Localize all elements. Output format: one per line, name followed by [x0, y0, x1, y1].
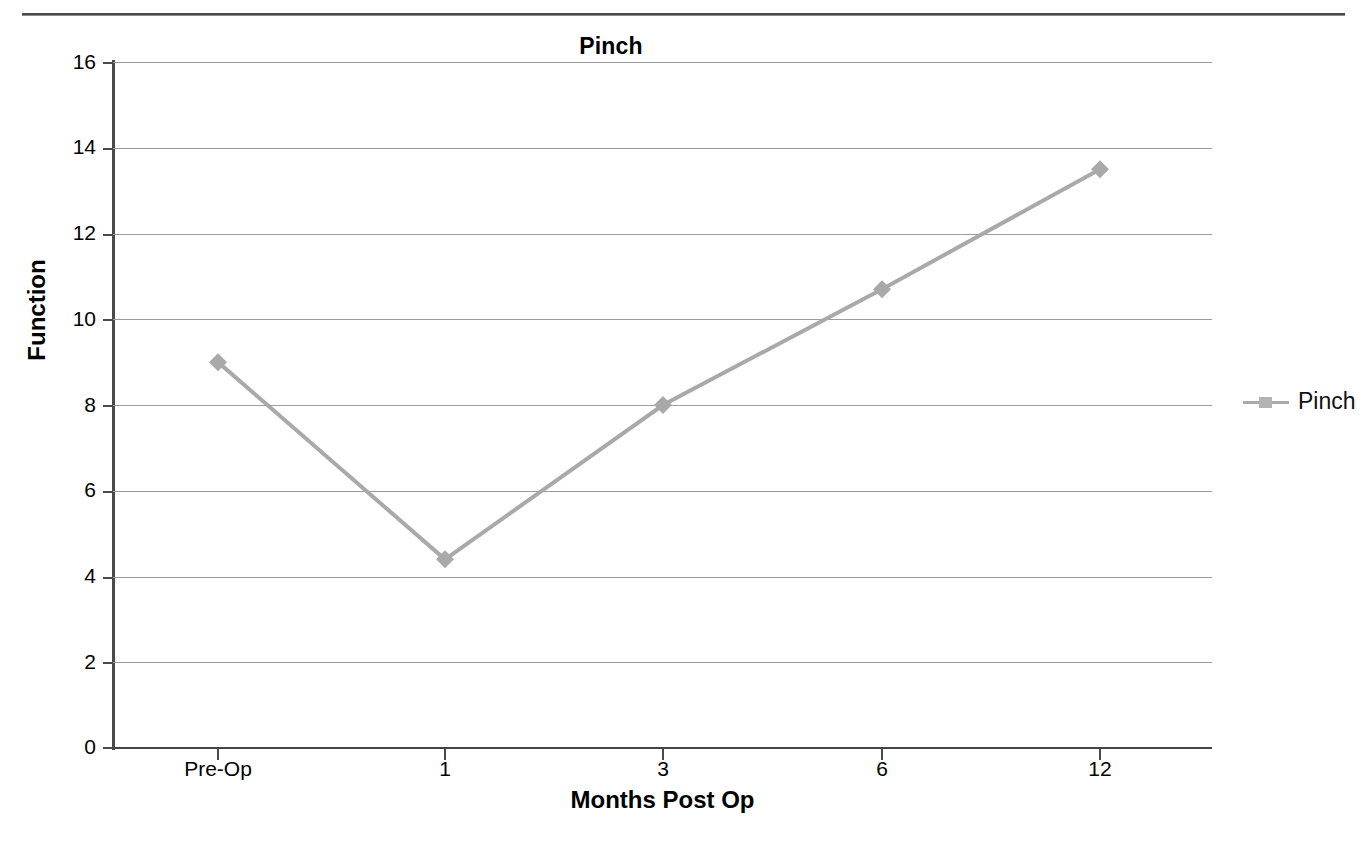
y-tick-label-14: 14: [36, 136, 96, 157]
y-tick-label-12: 12: [36, 222, 96, 243]
gridline-16: [113, 62, 1212, 63]
chart-legend: Pinch: [1243, 390, 1356, 413]
x-tick-label-3: 3: [583, 757, 743, 781]
y-tick-4: [103, 577, 113, 579]
x-tick-label-1: 1: [365, 757, 525, 781]
y-tick-12: [103, 234, 113, 236]
gridline-14: [113, 148, 1212, 149]
y-tick-label-8: 8: [36, 394, 96, 415]
y-tick-10: [103, 319, 113, 321]
y-tick-label-4: 4: [36, 565, 96, 586]
gridline-6: [113, 491, 1212, 492]
y-tick-label-6: 6: [36, 479, 96, 500]
gridline-12: [113, 234, 1212, 235]
y-tick-8: [103, 405, 113, 407]
x-tick-label-12: 12: [1020, 757, 1180, 781]
x-tick-label-pre-op: Pre-Op: [138, 757, 298, 781]
gridline-8: [113, 405, 1212, 406]
y-tick-label-16: 16: [36, 51, 96, 72]
y-tick-label-10: 10: [36, 308, 96, 329]
y-tick-16: [103, 62, 113, 64]
x-tick-label-6: 6: [802, 757, 962, 781]
legend-label-pinch: Pinch: [1298, 390, 1356, 413]
y-tick-label-2: 2: [36, 651, 96, 672]
gridline-4: [113, 577, 1212, 578]
gridline-10: [113, 319, 1212, 320]
y-tick-0: [103, 747, 113, 749]
plot-area: [113, 62, 1212, 748]
legend-marker-square: [1259, 397, 1272, 408]
y-tick-6: [103, 491, 113, 493]
y-tick-2: [103, 662, 113, 664]
chart-figure: Pinch Function 16 14 12 10 8 6 4 2 0 Pre…: [0, 0, 1370, 847]
legend-swatch-pinch: [1243, 394, 1289, 410]
y-tick-label-0: 0: [36, 736, 96, 757]
chart-title: Pinch: [0, 33, 1222, 60]
x-axis-title: Months Post Op: [113, 786, 1212, 814]
gridline-2: [113, 662, 1212, 663]
y-tick-14: [103, 148, 113, 150]
